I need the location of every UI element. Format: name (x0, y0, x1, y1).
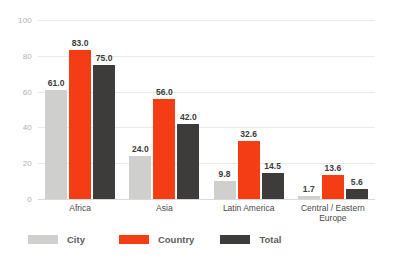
bar-group: 24.056.042.0 (122, 20, 206, 199)
bar-total[interactable] (177, 124, 199, 199)
legend-swatch-icon (220, 235, 250, 244)
bar-city[interactable] (129, 156, 151, 199)
y-axis-tick-0: 0 (6, 195, 32, 204)
bar-country[interactable] (238, 141, 260, 199)
bar-group: 61.083.075.0 (38, 20, 122, 199)
bar-slot: 32.6 (238, 20, 260, 199)
legend-item-country[interactable]: Country (119, 234, 194, 245)
x-axis-label: Latin America (207, 203, 291, 223)
bar-value-label: 75.0 (96, 53, 113, 63)
bar-slot: 56.0 (153, 20, 175, 199)
legend-swatch-icon (119, 235, 149, 244)
bar-value-label: 56.0 (156, 87, 173, 97)
y-axis-tick-80: 80 (6, 51, 32, 60)
bar-group: 1.713.65.6 (291, 20, 375, 199)
bar-total[interactable] (346, 189, 368, 199)
bar-value-label: 5.6 (351, 177, 363, 187)
bar-value-label: 61.0 (48, 78, 65, 88)
legend-label: Total (259, 234, 281, 245)
bar-total[interactable] (262, 173, 284, 199)
bar-country[interactable] (153, 99, 175, 199)
legend-swatch-icon (28, 235, 58, 244)
bar-value-label: 13.6 (324, 163, 341, 173)
bar-value-label: 32.6 (240, 129, 257, 139)
bar-value-label: 14.5 (264, 161, 281, 171)
y-axis-tick-20: 20 (6, 159, 32, 168)
bar-groups: 61.083.075.024.056.042.09.832.614.51.713… (38, 20, 375, 199)
bar-slot: 14.5 (262, 20, 284, 199)
bar-slot: 83.0 (69, 20, 91, 199)
bar-chart: 100 80 60 40 20 0 61.083.075.024.056.042… (0, 0, 396, 262)
y-axis-tick-40: 40 (6, 123, 32, 132)
y-axis-tick-100: 100 (6, 16, 32, 25)
bar-group: 9.832.614.5 (207, 20, 291, 199)
bar-group-bars: 24.056.042.0 (122, 20, 206, 199)
bar-total[interactable] (93, 65, 115, 199)
bar-value-label: 9.8 (219, 169, 231, 179)
bar-slot: 13.6 (322, 20, 344, 199)
bar-slot: 75.0 (93, 20, 115, 199)
gridline-0 (38, 199, 375, 200)
bar-group-bars: 1.713.65.6 (291, 20, 375, 199)
x-axis-labels: AfricaAsiaLatin AmericaCentral / Eastern… (38, 203, 375, 223)
x-axis-label: Central / Eastern Europe (291, 203, 375, 223)
bar-group-bars: 61.083.075.0 (38, 20, 122, 199)
legend-label: Country (158, 234, 194, 245)
bar-country[interactable] (69, 50, 91, 199)
bar-group-bars: 9.832.614.5 (207, 20, 291, 199)
bar-city[interactable] (45, 90, 67, 199)
bar-slot: 9.8 (214, 20, 236, 199)
bar-value-label: 42.0 (180, 112, 197, 122)
bar-slot: 42.0 (177, 20, 199, 199)
legend-label: City (67, 234, 85, 245)
x-axis-label: Asia (122, 203, 206, 223)
bar-value-label: 1.7 (303, 184, 315, 194)
bar-slot: 5.6 (346, 20, 368, 199)
y-axis-tick-60: 60 (6, 87, 32, 96)
bar-city[interactable] (214, 181, 236, 199)
bar-slot: 61.0 (45, 20, 67, 199)
legend-item-city[interactable]: City (28, 234, 85, 245)
bar-value-label: 83.0 (72, 38, 89, 48)
bar-country[interactable] (322, 175, 344, 199)
x-axis-label: Africa (38, 203, 122, 223)
bar-slot: 1.7 (298, 20, 320, 199)
bar-city[interactable] (298, 196, 320, 199)
bar-slot: 24.0 (129, 20, 151, 199)
bar-value-label: 24.0 (132, 144, 149, 154)
chart-legend: CityCountryTotal (28, 234, 281, 245)
legend-item-total[interactable]: Total (220, 234, 281, 245)
